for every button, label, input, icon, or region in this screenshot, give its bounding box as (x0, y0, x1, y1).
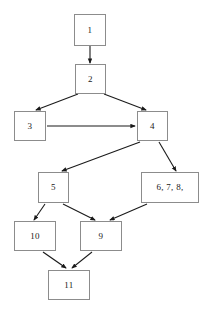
edge-n678-to-n9 (110, 204, 147, 220)
node-n9[interactable]: 9 (80, 221, 122, 251)
node-n5[interactable]: 5 (38, 172, 69, 203)
edge-n4-to-n5 (62, 142, 140, 171)
edge-n2-to-n3 (36, 94, 78, 110)
node-label: 10 (30, 232, 40, 241)
node-n10[interactable]: 10 (14, 221, 56, 251)
node-label: 2 (88, 75, 93, 84)
node-n11[interactable]: 11 (48, 270, 90, 300)
node-label: 1 (88, 26, 93, 35)
node-label: 5 (51, 183, 56, 192)
edge-n10-to-n11 (43, 252, 66, 268)
node-label: 11 (64, 281, 73, 290)
node-n678[interactable]: 6, 7, 8, (141, 172, 199, 203)
node-n2[interactable]: 2 (75, 64, 106, 94)
node-n1[interactable]: 1 (74, 14, 106, 46)
edge-n9-to-n11 (72, 252, 92, 268)
edge-layer (0, 0, 213, 313)
node-label: 6, 7, 8, (156, 183, 183, 192)
edge-n5-to-n10 (34, 204, 45, 220)
node-n4[interactable]: 4 (137, 111, 168, 141)
edge-n4-to-n678 (159, 142, 176, 171)
node-label: 4 (150, 122, 155, 131)
flowchart-diagram: 123456, 7, 8,10911 (0, 0, 213, 313)
node-label: 9 (99, 232, 104, 241)
edge-n5-to-n9 (63, 204, 95, 220)
node-label: 3 (28, 122, 33, 131)
node-n3[interactable]: 3 (14, 111, 46, 141)
edge-n2-to-n4 (104, 94, 146, 110)
